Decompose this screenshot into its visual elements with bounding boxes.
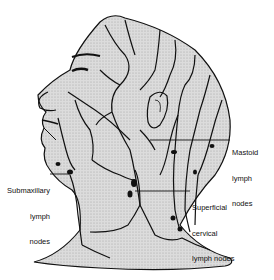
superficial-cervical-node [131, 179, 137, 187]
submaxillary-label: Submaxillary lymph nodes [2, 170, 50, 255]
mastoid-label: Mastoid lymph nodes [232, 132, 258, 217]
mastoid-node [171, 150, 177, 154]
superficial-cervical-label: Superficial cervical lymph nodes [192, 187, 235, 272]
